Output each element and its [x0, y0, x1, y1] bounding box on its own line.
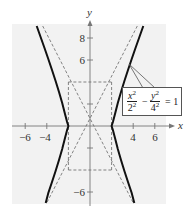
fraction-x: x2 22: [127, 90, 137, 113]
x-axis-arrow-icon: [169, 124, 175, 129]
minus-sign: −: [142, 96, 148, 107]
y-axis-arrow-icon: [88, 20, 93, 26]
exponent: 2: [132, 89, 136, 97]
y-axis-label: y: [86, 6, 92, 18]
exponent: 2: [155, 89, 159, 97]
x-tick-label: −6: [19, 131, 31, 143]
equation-label: x2 22 − y2 42 = 1: [122, 87, 182, 116]
x-axis-label: x: [177, 119, 183, 131]
equals-one: = 1: [165, 96, 178, 107]
exponent: 2: [133, 101, 137, 109]
y-tick-label: 6: [80, 54, 86, 66]
x-tick-label: 6: [152, 131, 158, 143]
fraction-y: y2 42: [150, 90, 160, 113]
x-tick-label: 4: [130, 131, 136, 143]
exponent: 2: [156, 101, 160, 109]
y-tick-label: −6: [73, 186, 85, 198]
x-tick-label: −4: [39, 131, 51, 143]
y-tick-label: 8: [80, 32, 86, 44]
